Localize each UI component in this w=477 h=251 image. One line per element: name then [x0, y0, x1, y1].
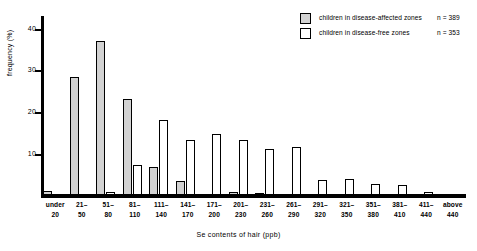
x-axis-tick-label-line: above — [437, 200, 469, 210]
legend-sample-size: n = 353 — [437, 29, 460, 36]
y-axis-tick-label: 30 — [16, 66, 36, 73]
y-axis-title: frequency (%) — [6, 30, 13, 76]
legend-item: children in disease-affected zonesn = 38… — [300, 11, 472, 26]
bar — [96, 41, 105, 196]
bar-group — [360, 16, 387, 196]
legend-label: children in disease-affected zones — [319, 14, 422, 21]
bar-group — [228, 16, 255, 196]
y-axis-line — [41, 16, 44, 197]
bar — [239, 140, 248, 196]
legend-sample-size: n = 389 — [437, 14, 460, 21]
bar-group — [122, 16, 149, 196]
bar-group — [175, 16, 202, 196]
x-axis-title: Se contents of hair (ppb) — [0, 231, 477, 238]
bar — [70, 77, 79, 196]
x-axis-line — [41, 194, 466, 198]
bar — [149, 167, 158, 196]
bar — [133, 165, 142, 196]
legend-swatch-icon — [300, 28, 311, 39]
bar — [186, 140, 195, 197]
bar-group — [307, 16, 334, 196]
bar-group — [281, 16, 308, 196]
figure-bar-chart: frequency (%) 10203040 under2021–5051–80… — [0, 0, 477, 251]
x-axis-tick-labels: under2021–5051–8081–110111–140141–170171… — [42, 200, 466, 226]
bar — [265, 149, 274, 196]
bar-group — [95, 16, 122, 196]
bar-group — [387, 16, 414, 196]
bar-group — [69, 16, 96, 196]
x-axis-tick-label-line: 440 — [437, 210, 469, 220]
bar — [123, 99, 132, 196]
y-axis-tick-label: 20 — [16, 108, 36, 115]
y-axis-tick-label: 10 — [16, 150, 36, 157]
x-axis-tick-label: above440 — [437, 200, 469, 219]
legend-swatch-icon — [300, 13, 311, 24]
bar — [212, 134, 221, 196]
bar-group — [334, 16, 361, 196]
bar-group — [254, 16, 281, 196]
plot-area: frequency (%) 10203040 — [42, 16, 466, 196]
bar-series-layer — [42, 16, 466, 196]
legend-item: children in disease-free zonesn = 353 — [300, 26, 472, 41]
y-axis-tick-label: 40 — [16, 25, 36, 32]
bar-group — [148, 16, 175, 196]
bar-group — [201, 16, 228, 196]
bar-group — [42, 16, 69, 196]
bar — [292, 147, 301, 196]
legend-label: children in disease-free zones — [319, 29, 410, 36]
chart-legend: children in disease-affected zonesn = 38… — [300, 11, 472, 41]
bar-group — [413, 16, 440, 196]
bar-group — [440, 16, 467, 196]
bar — [159, 120, 168, 196]
